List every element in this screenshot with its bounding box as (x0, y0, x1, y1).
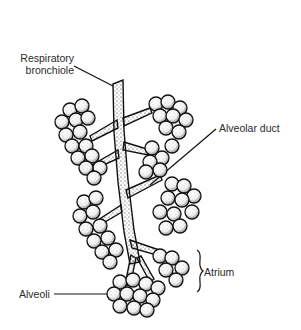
alveoli-illustration (0, 0, 301, 330)
alveolar-cluster-middle-left (73, 191, 123, 269)
alveolar-cluster-upper-left (55, 99, 107, 185)
alveolar-cluster-bottom (107, 273, 165, 317)
atrium-brace (197, 250, 203, 292)
alveolar-cluster-upper-right (139, 95, 193, 179)
label-atrium: Atrium (204, 266, 234, 278)
label-alveoli: Alveoli (19, 288, 50, 300)
label-respiratory-line1: Respiratory (18, 52, 74, 64)
label-alveolar-duct: Alveolar duct (219, 122, 280, 134)
label-respiratory-line2: bronchiole (18, 64, 74, 76)
label-respiratory-bronchiole: Respiratory bronchiole (18, 52, 74, 76)
leader-respiratory-bronchiole (74, 66, 113, 86)
alveolar-cluster-middle-right (153, 177, 201, 235)
alveoli-diagram: Respiratory bronchiole Alveolar duct Atr… (0, 0, 301, 330)
